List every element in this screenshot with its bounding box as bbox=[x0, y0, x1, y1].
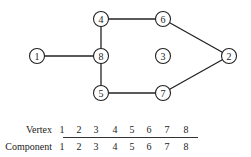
vertex-cell: 2 bbox=[74, 124, 84, 135]
component-row-label: Component bbox=[0, 141, 52, 152]
component-cell: 7 bbox=[162, 141, 172, 152]
vertex-cell: 8 bbox=[181, 124, 191, 135]
component-cell: 8 bbox=[181, 141, 191, 152]
component-cell: 4 bbox=[110, 141, 120, 152]
component-cell: 5 bbox=[127, 141, 137, 152]
vertex-row-label: Vertex bbox=[0, 124, 52, 135]
vertex-cell: 4 bbox=[110, 124, 120, 135]
table-divider bbox=[63, 137, 198, 138]
vertex-cell: 1 bbox=[57, 124, 67, 135]
vertex-cell: 7 bbox=[162, 124, 172, 135]
component-cell: 2 bbox=[74, 141, 84, 152]
vertex-cell: 5 bbox=[127, 124, 137, 135]
vertex-cell: 6 bbox=[144, 124, 154, 135]
component-cell: 3 bbox=[91, 141, 101, 152]
component-cell: 1 bbox=[57, 141, 67, 152]
component-cell: 6 bbox=[144, 141, 154, 152]
vertex-cell: 3 bbox=[91, 124, 101, 135]
vertex-component-table: Vertex Component 12345678 12345678 bbox=[0, 0, 251, 157]
